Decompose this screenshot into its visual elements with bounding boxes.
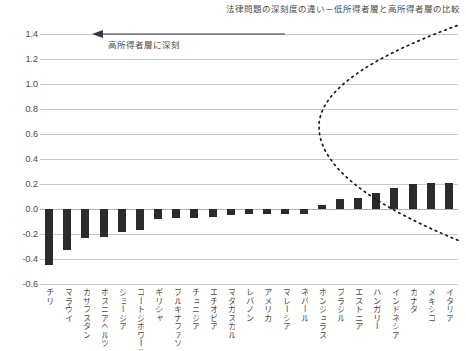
x-axis-tick-label: イタリア <box>445 288 454 350</box>
y-axis-tick-label: -0.6 <box>4 280 38 289</box>
y-axis-tick-label: 1.2 <box>4 55 38 64</box>
bar <box>100 209 108 237</box>
y-axis-tick-label: 0.4 <box>4 155 38 164</box>
bar <box>336 199 344 209</box>
y-axis-tick-label: 0.6 <box>4 130 38 139</box>
gridline <box>40 34 458 35</box>
x-axis-tick-label: ネパール <box>299 288 308 350</box>
x-axis-tick-label: ハンガリー <box>372 288 381 350</box>
gridline <box>40 84 458 85</box>
y-axis-tick-label: 1.4 <box>4 30 38 39</box>
x-axis-tick-label: アメリカ <box>263 288 272 350</box>
x-axis-tick-label: チリ <box>45 288 54 350</box>
x-axis-tick-label: ギリシャ <box>154 288 163 350</box>
bar <box>427 183 435 209</box>
y-axis-tick-label: 0.0 <box>4 205 38 214</box>
bar <box>154 209 162 219</box>
y-axis-tick-label: -0.4 <box>4 255 38 264</box>
gridline <box>40 134 458 135</box>
x-axis-tick-label: マラウイ <box>63 288 72 350</box>
x-axis-tick-label: エチオピア <box>208 288 217 350</box>
bar <box>209 209 217 217</box>
y-axis-tick-labels: 1.41.21.00.80.60.40.20.0-0.2-0.4-0.6 <box>0 34 38 284</box>
x-axis-tick-label: チュニジア <box>190 288 199 350</box>
x-axis-tick-label: ブルキナファソ <box>172 288 181 350</box>
y-axis-tick-label: -0.2 <box>4 230 38 239</box>
x-axis-tick-label: マレーシア <box>281 288 290 350</box>
gridline <box>40 284 458 285</box>
bar <box>263 209 271 214</box>
y-axis-tick-label: 0.2 <box>4 180 38 189</box>
x-axis-tick-label: ホンジュラス <box>317 288 326 350</box>
bar <box>445 183 453 209</box>
x-axis-tick-label: ボスニアヘルツェゴビナ <box>99 288 108 350</box>
y-axis-tick-label: 0.8 <box>4 105 38 114</box>
bar <box>318 205 326 209</box>
x-axis-tick-label: レバノン <box>245 288 254 350</box>
bar <box>281 209 289 214</box>
annotation-high-income-label: 高所得者層に深刻 <box>108 38 180 50</box>
bar <box>227 209 235 215</box>
bar <box>118 209 126 232</box>
bar <box>45 209 53 265</box>
chart-root: 法律問題の深刻度の違い－低所得者層と高所得者層の比較 1.41.21.00.80… <box>0 0 466 351</box>
gridline <box>40 59 458 60</box>
x-axis-tick-label: エストニア <box>354 288 363 350</box>
bar <box>409 184 417 209</box>
x-axis-tick-label: カナダ <box>408 288 417 350</box>
plot-area <box>40 34 458 284</box>
x-axis-tick-label: カザフスタン <box>81 288 90 350</box>
bar <box>63 209 71 250</box>
bar <box>136 209 144 230</box>
gridline <box>40 259 458 260</box>
x-axis-tick-label: ジョージア <box>118 288 127 350</box>
bar <box>245 209 253 214</box>
bar <box>354 198 362 209</box>
bar <box>190 209 198 218</box>
bar <box>300 209 308 214</box>
y-axis-tick-label: 1.0 <box>4 80 38 89</box>
bar <box>372 193 380 209</box>
bar <box>81 209 89 238</box>
x-axis-tick-label: コートジボワール <box>136 288 145 350</box>
x-axis-tick-label: マダガスカル <box>227 288 236 350</box>
bar <box>390 188 398 209</box>
bar <box>172 209 180 218</box>
x-axis-tick-label: ブラジル <box>336 288 345 350</box>
gridline <box>40 109 458 110</box>
gridline <box>40 184 458 185</box>
chart-title: 法律問題の深刻度の違い－低所得者層と高所得者層の比較 <box>226 2 460 14</box>
x-axis-tick-label: メキシコ <box>426 288 435 350</box>
x-axis-tick-label: インドネシア <box>390 288 399 350</box>
gridline <box>40 159 458 160</box>
